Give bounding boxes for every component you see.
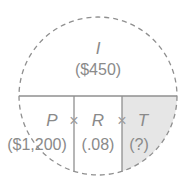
- label-r-value: (.08): [82, 136, 115, 153]
- multiply-operator-2: ×: [117, 112, 126, 129]
- label-i-value: ($450): [75, 61, 121, 78]
- label-r-variable: R: [92, 111, 104, 130]
- label-i-variable: I: [96, 39, 101, 58]
- label-t-variable: T: [138, 111, 150, 130]
- label-p-variable: P: [46, 111, 58, 130]
- interest-circle-diagram: I ($450) P ($1,200) R (.08) T (?) × ×: [0, 0, 178, 180]
- label-t-value: (?): [129, 136, 149, 153]
- multiply-operator-1: ×: [69, 112, 78, 129]
- label-p-value: ($1,200): [7, 136, 67, 153]
